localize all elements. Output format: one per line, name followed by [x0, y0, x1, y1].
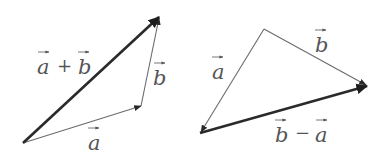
- svg-text:a: a: [88, 131, 101, 155]
- label-diff-minus: −: [295, 122, 310, 143]
- vector-difference-figure: a b b − a: [200, 29, 367, 147]
- svg-text:a: a: [212, 60, 225, 84]
- label-a-plus-b: a + b: [37, 52, 91, 79]
- label-side-a: a: [212, 57, 225, 84]
- label-sum-plus: +: [57, 55, 72, 76]
- label-side-b: b: [153, 63, 166, 90]
- vector-sum-figure: a + b b a: [23, 17, 166, 155]
- label-b-minus-a: b − a: [275, 120, 328, 147]
- label-diff-b: b: [275, 123, 288, 147]
- label-sum-a: a: [37, 55, 50, 79]
- label-diff-a: a: [315, 123, 328, 147]
- svg-text:b: b: [153, 66, 166, 90]
- vector-diagram: a + b b a a b: [0, 0, 390, 164]
- svg-text:b: b: [315, 33, 328, 57]
- vector-a-arrow: [23, 106, 141, 143]
- label-sum-b: b: [78, 55, 91, 79]
- vector-a-plus-b-arrow: [23, 17, 159, 143]
- label-side-b: b: [315, 30, 328, 57]
- label-side-a: a: [88, 128, 101, 155]
